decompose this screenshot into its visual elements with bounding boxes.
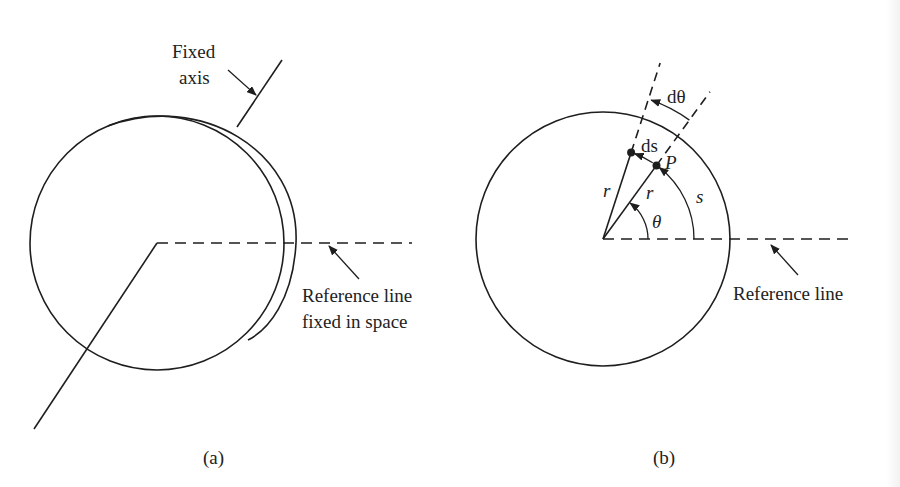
panel-b: dθ ds P r r s θ Reference line (b) xyxy=(476,63,852,469)
caption-b: (b) xyxy=(653,447,675,469)
fixed-axis-upper xyxy=(237,60,282,127)
radius-label-2: r xyxy=(646,182,654,203)
s-arc-arrow xyxy=(659,168,694,239)
reference-label-a-line1: Reference line xyxy=(302,285,412,306)
page-edge-shadow xyxy=(886,0,900,487)
figure-canvas: Fixed axis Reference line fixed in space… xyxy=(0,0,900,487)
caption-a: (a) xyxy=(203,447,224,469)
theta-arc-arrow xyxy=(630,203,648,239)
angle-theta-label: θ xyxy=(652,211,661,232)
fixed-axis-label-line1: Fixed xyxy=(172,41,216,62)
point-p-label: P xyxy=(664,152,677,173)
reference-line-pointer-arrow-a xyxy=(329,246,359,279)
reference-line-pointer-arrow-b xyxy=(771,245,798,275)
reference-label-a-line2: fixed in space xyxy=(302,311,408,332)
point-p-plus-ds xyxy=(627,148,635,156)
fixed-axis-label-line2: axis xyxy=(179,67,210,88)
fixed-axis-lower xyxy=(34,243,157,429)
panel-a: Fixed axis Reference line fixed in space… xyxy=(30,41,412,469)
dtheta-label: dθ xyxy=(667,86,686,107)
fixed-axis-pointer-arrow xyxy=(228,70,256,95)
radius-label-1: r xyxy=(603,180,611,201)
reference-label-b: Reference line xyxy=(733,283,843,304)
arc-length-label: s xyxy=(696,186,703,207)
point-p xyxy=(652,161,660,169)
ds-label: ds xyxy=(641,135,658,156)
